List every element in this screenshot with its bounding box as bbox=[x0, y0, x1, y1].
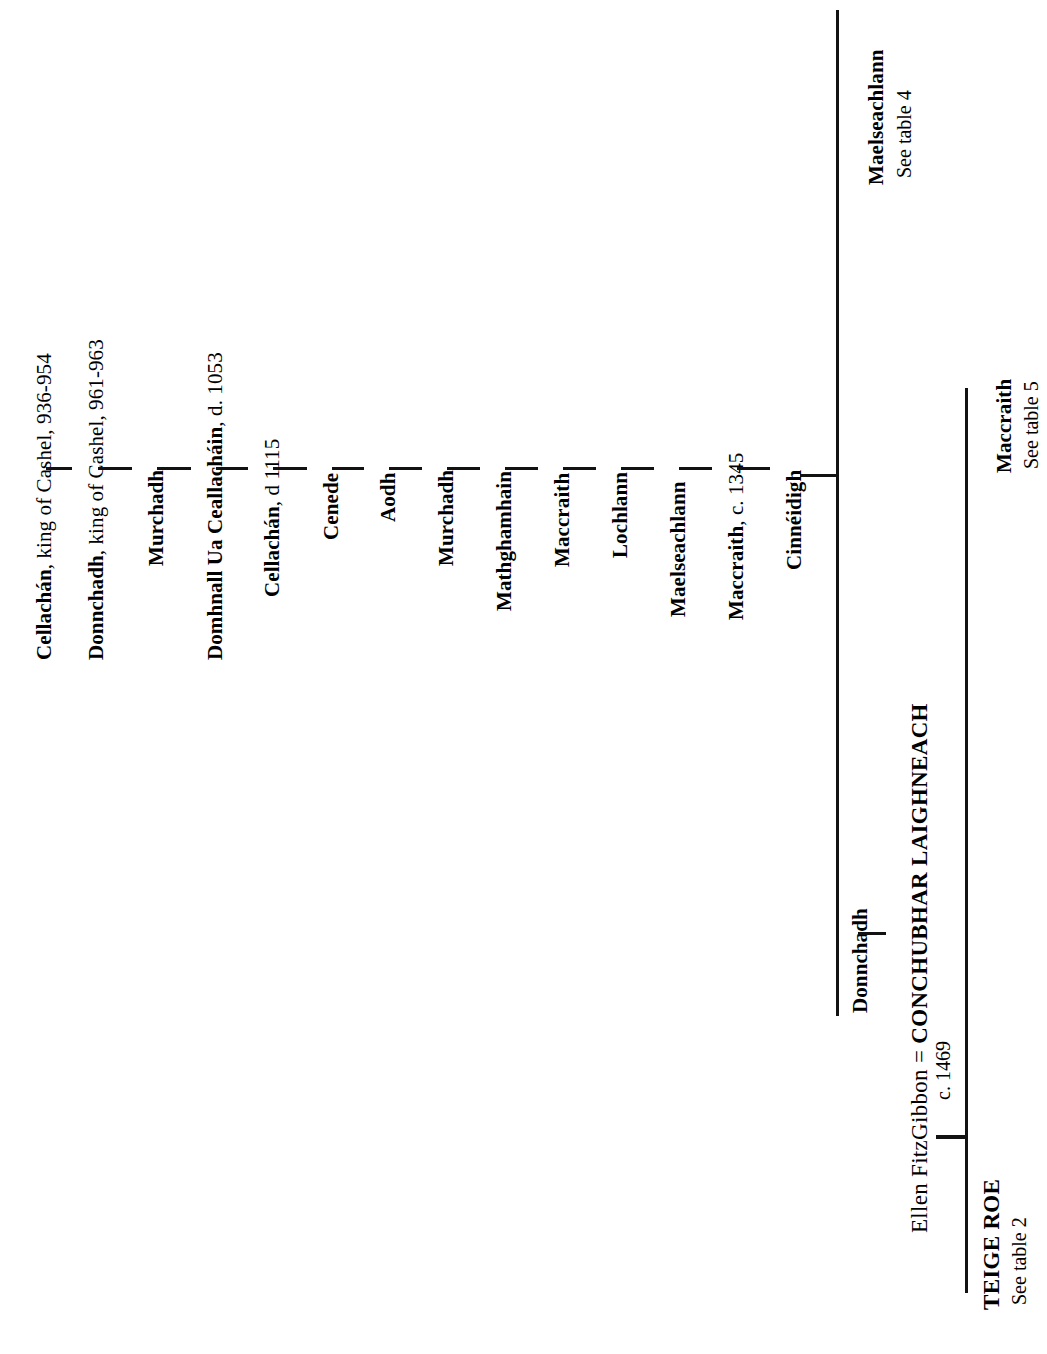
branch-label-maccraith: Maccraith bbox=[994, 379, 1015, 473]
person-label-lochlann: Lochlann bbox=[610, 472, 631, 558]
person-label-maccraith-1345: Maccraith, c. 1345 bbox=[726, 453, 747, 620]
person-label-cenede: Cenede bbox=[321, 473, 342, 540]
branch-ref-see-table-4: See table 4 bbox=[894, 90, 914, 178]
connector-tick-2 bbox=[98, 467, 132, 470]
sibling-bar-cinneidigh-children bbox=[836, 10, 839, 1016]
person-label-murchadh-2: Murchadh bbox=[436, 470, 457, 566]
connector-tick-10 bbox=[563, 467, 596, 470]
connector-tick-3 bbox=[157, 467, 191, 470]
person-label-cellachan-1: Cellachán, king of Cashel, 936-954 bbox=[34, 353, 55, 660]
sibling-bar-conchubhar-children bbox=[965, 388, 968, 1293]
connector-tick-13 bbox=[737, 467, 770, 470]
branch-ref-see-table-2: See table 2 bbox=[1009, 1217, 1029, 1305]
conchubhar-date: c. 1469 bbox=[933, 1041, 953, 1100]
genealogy-table-page: Cellachán, king of Cashel, 936-954 Donnc… bbox=[0, 0, 1047, 1354]
branch-label-donnchadh: Donnchadh bbox=[850, 908, 871, 1013]
connector-tick-teige-roe bbox=[936, 1135, 968, 1139]
person-label-cellachan-2: Cellachán, d 1115 bbox=[262, 439, 283, 597]
connector-tick-11 bbox=[621, 467, 654, 470]
connector-tick-4 bbox=[216, 467, 248, 470]
branch-label-teige-roe: TEIGE ROE bbox=[980, 1179, 1003, 1310]
person-label-donnchadh-king: Donnchadh, king of Cashel, 961-963 bbox=[86, 339, 107, 660]
connector-tick-1 bbox=[46, 467, 72, 470]
branch-ref-see-table-5: See table 5 bbox=[1021, 381, 1041, 469]
person-label-maccraith-1: Maccraith bbox=[552, 473, 573, 567]
person-label-murchadh-1: Murchadh bbox=[146, 470, 167, 566]
connector-tick-12 bbox=[679, 467, 712, 470]
person-label-domhnall-ua-ceallachain: Domhnall Ua Ceallacháin, d. 1053 bbox=[205, 352, 226, 660]
connector-tick-9 bbox=[505, 467, 538, 470]
connector-tick-5 bbox=[273, 467, 307, 470]
connector-tick-6 bbox=[332, 467, 364, 470]
connector-tick-7 bbox=[389, 467, 422, 470]
connector-tick-8 bbox=[447, 467, 480, 470]
person-label-maelseachlann-main: Maelseachlann bbox=[668, 482, 689, 617]
connector-tick-donnchadh bbox=[858, 932, 886, 935]
person-label-cinneidigh: Cinnéidigh bbox=[784, 470, 805, 570]
connector-tick-14 bbox=[800, 474, 838, 477]
person-label-aodh: Aodh bbox=[378, 473, 399, 522]
person-label-conchubhar-laighneach: Ellen FitzGibbon = CONCHUBHAR LAIGHNEACH bbox=[908, 703, 931, 1233]
branch-label-maelseachlann: Maelseachlann bbox=[866, 50, 887, 185]
person-label-mathghamhain: Mathghamhain bbox=[494, 471, 515, 611]
